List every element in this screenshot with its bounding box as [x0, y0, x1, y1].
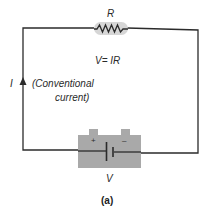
current-symbol: I [10, 79, 13, 89]
current-arrow-icon [20, 77, 27, 85]
current-description-line2: current) [55, 93, 89, 103]
resistor-label: R [107, 9, 114, 19]
battery-positive-label: + [91, 137, 96, 145]
battery-icon [78, 129, 141, 168]
figure-caption: (a) [101, 196, 113, 206]
circuit-wire [23, 28, 198, 153]
battery-voltage-label: V [106, 174, 113, 184]
current-description-line1: (Conventional [32, 79, 94, 89]
circuit-drawing [0, 0, 209, 213]
battery-negative-label: – [122, 137, 126, 145]
ohms-law-equation: V= IR [95, 56, 120, 66]
